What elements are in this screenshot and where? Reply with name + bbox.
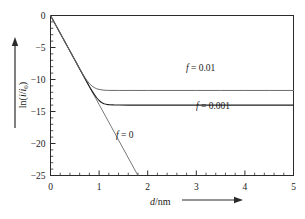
y-tick-label: −25 (31, 171, 46, 181)
y-axis-title: ln(i/i0) (12, 60, 26, 130)
x-axis-title: d/nm (150, 196, 171, 207)
chart-background (0, 0, 305, 219)
x-tick-label: 5 (291, 182, 296, 192)
y-tick-label: −20 (31, 139, 46, 149)
tunneling-current-chart: 012345 0−5−10−15−20−25 (0, 0, 305, 219)
curve-label-f-0-001: f = 0.001 (196, 101, 230, 111)
y-tick-label: −5 (35, 43, 45, 53)
x-tick-label: 3 (194, 182, 199, 192)
x-tick-label: 2 (145, 182, 150, 192)
curve-label-f-0-01: f = 0.01 (186, 63, 215, 73)
y-tick-label: −10 (31, 75, 46, 85)
y-tick-label: 0 (41, 11, 46, 21)
x-tick-label: 4 (243, 182, 248, 192)
x-tick-label: 0 (48, 182, 53, 192)
y-axis-title-text: ln(i/i0) (17, 82, 28, 108)
curve-label-f-0: f = 0 (116, 130, 134, 140)
y-tick-label: −15 (31, 107, 46, 117)
x-tick-label: 1 (97, 182, 102, 192)
